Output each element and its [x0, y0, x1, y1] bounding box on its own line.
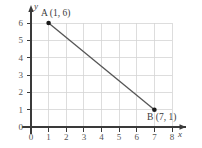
x-tick-label-8: 8 — [165, 133, 179, 142]
x-tick-label-0: 0 — [24, 133, 38, 142]
plot-canvas — [0, 0, 202, 148]
x-tick-label-4: 4 — [95, 133, 109, 142]
x-tick-label-6: 6 — [130, 133, 144, 142]
y-tick-label-1: 1 — [9, 106, 23, 115]
x-tick-label-7: 7 — [147, 133, 161, 142]
x-axis-label: x — [178, 130, 182, 139]
point-label-b: B (7, 1) — [147, 113, 176, 123]
x-tick-label-5: 5 — [112, 133, 126, 142]
y-tick-label-5: 5 — [9, 36, 23, 45]
x-axis — [22, 124, 186, 129]
y-tick-label-2: 2 — [9, 88, 23, 97]
y-axis — [28, 5, 33, 134]
y-tick-label-3: 3 — [9, 71, 23, 80]
y-tick-label-4: 4 — [9, 54, 23, 63]
x-tick-label-3: 3 — [77, 133, 91, 142]
y-axis-label: y — [34, 2, 38, 11]
y-tick-label-6: 6 — [9, 19, 23, 28]
data-point-a — [46, 21, 51, 26]
x-tick-label-2: 2 — [59, 133, 73, 142]
x-tick-label-1: 1 — [42, 133, 56, 142]
point-label-a: A (1, 6) — [41, 9, 70, 19]
y-tick-label-0: 0 — [9, 123, 23, 132]
coordinate-plane-figure: 0 1 2 3 4 5 6 7 8 0 1 2 3 4 5 6 x y A (1… — [0, 0, 202, 148]
